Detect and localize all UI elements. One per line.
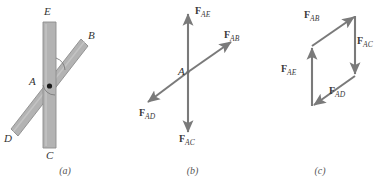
panel-c-graphic	[255, 0, 385, 180]
panel-b-graphic	[130, 0, 255, 180]
pin-joint-a	[47, 83, 52, 88]
point-label-d: D	[4, 133, 12, 144]
panel-b: A FAE FAB FAC FAD (b)	[130, 0, 255, 180]
panel-c-caption: (c)	[255, 165, 385, 176]
vector-label-fac: FAC	[357, 36, 373, 49]
vector-label-fae: FAE	[195, 6, 210, 19]
vector-label-fae-subscript: AE	[201, 10, 210, 19]
vector-label-fac-subscript: AC	[363, 40, 373, 49]
point-label-c: C	[46, 150, 53, 161]
vector-label-fab: FAB	[304, 10, 319, 23]
vector-label-fab: FAB	[224, 30, 239, 43]
vector-label-fac: FAC	[179, 134, 195, 147]
vector-fab	[188, 42, 231, 72]
panel-a-caption: (a)	[0, 165, 130, 176]
vector-label-fad-subscript: AD	[335, 90, 345, 99]
vector-label-fad-subscript: AD	[145, 112, 155, 121]
point-label-e: E	[44, 6, 51, 17]
panel-b-caption: (b)	[130, 165, 255, 176]
vector-label-fae: FAE	[281, 64, 296, 77]
panel-c: FAB FAC FAE FAD (c)	[255, 0, 385, 180]
point-label-a: A	[29, 76, 36, 87]
joint-point-a	[186, 70, 189, 73]
panel-a: E B A D C (a)	[0, 0, 130, 180]
figure-container: E B A D C (a) A FAE	[0, 0, 385, 180]
vector-label-fab-subscript: AB	[310, 14, 319, 23]
joint-label-a: A	[178, 66, 185, 77]
vector-label-fae-subscript: AE	[287, 68, 296, 77]
vector-label-fad: FAD	[139, 108, 155, 121]
panel-a-graphic	[0, 0, 130, 180]
vector-label-fac-subscript: AC	[185, 138, 195, 147]
vector-label-fad: FAD	[329, 86, 345, 99]
point-label-b: B	[88, 30, 95, 41]
vector-label-fab-subscript: AB	[230, 34, 239, 43]
